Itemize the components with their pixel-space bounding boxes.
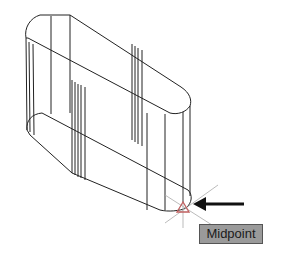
snap-crosshair: [165, 185, 218, 228]
left-arrow-icon: [193, 197, 244, 211]
osnap-tooltip: Midpoint: [199, 224, 263, 244]
slot-wireframe: [26, 15, 192, 211]
top-face: [26, 15, 191, 114]
